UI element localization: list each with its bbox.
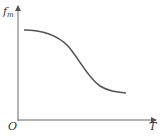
y-axis-label: fm	[3, 6, 14, 21]
curve-fm-vs-T	[24, 30, 126, 93]
x-axis-label: T	[149, 121, 156, 132]
origin-label: O	[8, 121, 17, 132]
y-label-sub: m	[7, 11, 14, 19]
plot-canvas	[0, 0, 163, 138]
